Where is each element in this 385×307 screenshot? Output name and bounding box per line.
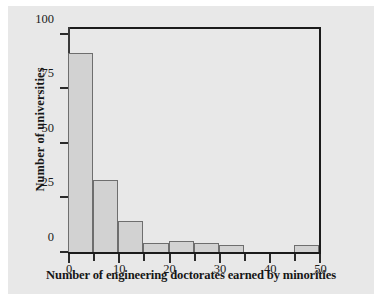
y-tick-mark xyxy=(60,251,68,253)
x-tick-mark-minor xyxy=(143,254,145,261)
y-axis-title-container: Number of universities xyxy=(22,26,44,251)
x-axis-title: Number of engineering doctorates earned … xyxy=(8,268,374,283)
x-tick-mark-minor xyxy=(194,254,196,261)
bar xyxy=(169,241,194,252)
y-tick-label: 25 xyxy=(42,176,55,191)
bar xyxy=(219,245,244,252)
bar xyxy=(294,245,319,252)
bar xyxy=(68,53,93,252)
plot-frame-top xyxy=(68,27,321,29)
y-tick-mark xyxy=(60,196,68,198)
x-tick-mark-minor xyxy=(294,254,296,261)
figure-panel: Number of universities 0255075100 010203… xyxy=(8,6,374,294)
bar xyxy=(194,243,219,252)
y-tick-mark xyxy=(60,87,68,89)
bar xyxy=(143,243,168,252)
x-tick-mark-minor xyxy=(93,254,95,261)
bar xyxy=(93,180,118,252)
bar xyxy=(118,221,143,252)
y-tick-mark xyxy=(60,33,68,35)
plot-area: 0255075100 01020304050 xyxy=(68,27,321,254)
x-tick-mark-minor xyxy=(244,254,246,261)
y-tick-label: 50 xyxy=(42,121,55,136)
y-tick-label: 75 xyxy=(42,67,55,82)
y-tick-mark xyxy=(60,142,68,144)
plot-frame-right xyxy=(319,27,321,254)
y-tick-label: 0 xyxy=(48,230,54,245)
y-tick-label: 100 xyxy=(35,12,54,27)
